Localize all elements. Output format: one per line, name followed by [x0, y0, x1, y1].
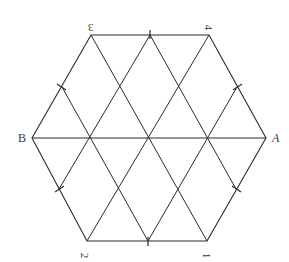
hexagon-grid-svg	[0, 0, 289, 262]
vertex-label-1: 1	[201, 253, 212, 259]
hexagon-diagram: 3 4 B A 2 1	[0, 0, 289, 262]
vertex-label-B: B	[18, 132, 26, 144]
vertex-label-3: 3	[88, 22, 94, 33]
tick-lower-left-edge	[55, 186, 64, 192]
tick-upper-right-edge	[233, 84, 242, 90]
vertex-label-4: 4	[203, 25, 214, 31]
tick-upper-left-edge	[57, 84, 66, 90]
vertex-label-A: A	[272, 132, 279, 144]
tick-lower-right-edge	[232, 186, 241, 192]
vertex-label-2: 2	[79, 253, 90, 259]
